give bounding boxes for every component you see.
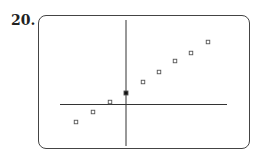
open-square-marker	[173, 59, 177, 63]
open-square-marker	[206, 40, 210, 44]
data-points	[74, 40, 210, 124]
open-square-marker	[91, 110, 95, 114]
scatter-plot	[0, 0, 268, 159]
filled-square-marker	[124, 91, 128, 95]
open-square-marker	[141, 80, 145, 84]
open-square-marker	[157, 70, 161, 74]
open-square-marker	[189, 51, 193, 55]
open-square-marker	[108, 100, 112, 104]
open-square-marker	[74, 120, 78, 124]
